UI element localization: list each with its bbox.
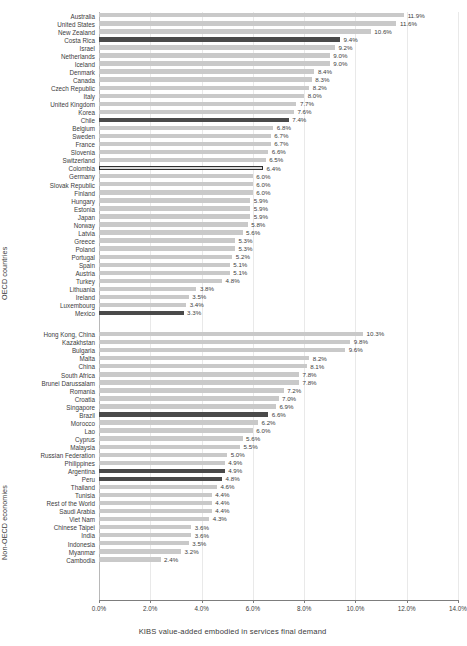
bar-track: 5.6%	[99, 229, 458, 237]
bar-track: 7.8%	[99, 379, 458, 387]
category-label: Indonesia	[0, 541, 99, 548]
category-label: Denmark	[0, 69, 99, 76]
bar-track: 5.5%	[99, 443, 458, 451]
bar	[99, 549, 181, 553]
category-label: Luxembourg	[0, 302, 99, 309]
bar-row: Belgium6.8%	[0, 125, 465, 133]
category-label: Singapore	[0, 404, 99, 411]
category-label: Russian Federation	[0, 452, 99, 459]
bar-row: Poland5.3%	[0, 245, 465, 253]
bar-row: France6.7%	[0, 141, 465, 149]
bar-row: Hong Kong, China10.3%	[0, 331, 465, 339]
bar-row: Denmark8.4%	[0, 68, 465, 76]
bar	[99, 295, 189, 299]
bar	[99, 69, 314, 73]
bar-row: Indonesia3.5%	[0, 540, 465, 548]
bar-row: Lithuania3.8%	[0, 286, 465, 294]
plot-area: Australia11.9%United States11.6%New Zeal…	[0, 12, 465, 564]
bar-row: India3.6%	[0, 532, 465, 540]
category-label: Germany	[0, 173, 99, 180]
bar-row: Brunei Darussalam7.8%	[0, 379, 465, 387]
oecd-bar-group: Australia11.9%United States11.6%New Zeal…	[0, 12, 465, 318]
bar	[99, 142, 271, 146]
category-label: Malaysia	[0, 444, 99, 451]
bar-track: 7.2%	[99, 387, 458, 395]
bar-track: 8.2%	[99, 84, 458, 92]
bar-track: 11.6%	[99, 20, 458, 28]
bar	[99, 469, 225, 473]
category-label: Switzerland	[0, 157, 99, 164]
x-tick-label: 6.0%	[246, 605, 260, 612]
bar-row: Turkey4.8%	[0, 278, 465, 286]
bar	[99, 420, 258, 424]
bar-row: Australia11.9%	[0, 12, 465, 20]
bar-track: 5.0%	[99, 451, 458, 459]
bar	[99, 509, 212, 513]
bar-row: Cambodia2.4%	[0, 556, 465, 564]
bar-row: United Kingdom7.7%	[0, 101, 465, 109]
bar	[99, 364, 307, 368]
bar-row: Switzerland6.5%	[0, 157, 465, 165]
bar-track: 5.1%	[99, 261, 458, 269]
bar-track: 6.0%	[99, 427, 458, 435]
category-label: Croatia	[0, 396, 99, 403]
category-label: Finland	[0, 190, 99, 197]
x-tick-label: 12.0%	[398, 605, 416, 612]
category-label: Thailand	[0, 484, 99, 491]
bar-track: 5.9%	[99, 197, 458, 205]
bar-row: Slovak Republic6.0%	[0, 181, 465, 189]
bar-track: 8.0%	[99, 92, 458, 100]
bar-track: 6.6%	[99, 411, 458, 419]
bar-track: 4.4%	[99, 500, 458, 508]
bar	[99, 37, 340, 41]
category-label: Latvia	[0, 230, 99, 237]
category-label: Kazakhstan	[0, 339, 99, 346]
bar-value-label: 4.3%	[213, 515, 227, 524]
category-label: Costa Rica	[0, 37, 99, 44]
bar-value-label: 2.4%	[164, 556, 178, 565]
bar-track: 3.2%	[99, 548, 458, 556]
bar	[99, 86, 309, 90]
bar	[99, 190, 253, 194]
bar-track: 5.8%	[99, 221, 458, 229]
bar	[99, 126, 273, 130]
bar-track: 3.5%	[99, 540, 458, 548]
bar-row: China8.1%	[0, 363, 465, 371]
x-tick-label: 14.0%	[449, 605, 467, 612]
category-label: Japan	[0, 214, 99, 221]
category-label: Mexico	[0, 310, 99, 317]
bar	[99, 485, 217, 489]
category-label: South Africa	[0, 372, 99, 379]
bar-row: Chile7.4%	[0, 117, 465, 125]
bar-row: Estonia5.9%	[0, 205, 465, 213]
bar-track: 4.9%	[99, 468, 458, 476]
category-label: Czech Republic	[0, 85, 99, 92]
bar-row: Myanmar3.2%	[0, 548, 465, 556]
category-label: Israel	[0, 45, 99, 52]
bar-row: Germany6.0%	[0, 173, 465, 181]
category-label: Turkey	[0, 278, 99, 285]
bar	[99, 372, 299, 376]
bar-row: Netherlands9.0%	[0, 52, 465, 60]
bar-track: 9.0%	[99, 52, 458, 60]
bar-row: Colombia6.4%	[0, 165, 465, 173]
category-label: Viet Nam	[0, 516, 99, 523]
category-label: Korea	[0, 109, 99, 116]
category-label: Bulgaria	[0, 347, 99, 354]
category-label: Chinese Taipei	[0, 524, 99, 531]
bar-track: 9.6%	[99, 347, 458, 355]
bar-track: 6.4%	[99, 165, 458, 173]
bar-row: Malta8.2%	[0, 355, 465, 363]
category-label: Norway	[0, 222, 99, 229]
bar	[99, 493, 212, 497]
category-label: Canada	[0, 77, 99, 84]
category-label: Hong Kong, China	[0, 331, 99, 338]
bar-track: 2.4%	[99, 556, 458, 564]
bar	[99, 222, 248, 226]
bar	[99, 94, 304, 98]
bar-row: Kazakhstan9.8%	[0, 339, 465, 347]
category-label: Slovenia	[0, 149, 99, 156]
bar	[99, 477, 222, 481]
bar	[99, 332, 363, 336]
bar-track: 3.3%	[99, 310, 458, 318]
